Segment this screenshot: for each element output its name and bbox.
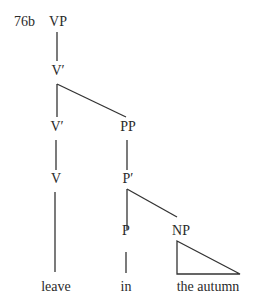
node-np: NP: [172, 224, 190, 238]
node-p: P: [122, 224, 130, 238]
leaf-the-autumn: the autumn: [177, 280, 240, 294]
node-vbar-top: V′: [51, 64, 64, 78]
node-vbar-lower: V′: [50, 120, 63, 134]
edge-vbar-pp: [57, 84, 126, 117]
node-pp: PP: [120, 120, 136, 134]
example-number: 76b: [14, 15, 35, 29]
edge-pbar-np: [127, 189, 177, 217]
leaf-in: in: [121, 280, 132, 294]
leaf-leave: leave: [41, 280, 71, 294]
node-v: V: [51, 172, 61, 186]
np-triangle: [177, 241, 240, 274]
tree-branches: [0, 0, 256, 306]
node-vp: VP: [49, 15, 67, 29]
node-pbar: P′: [123, 172, 134, 186]
